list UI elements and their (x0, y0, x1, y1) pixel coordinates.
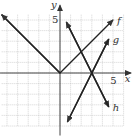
y-axis-label: y (50, 0, 57, 10)
series-g-label: g (113, 34, 119, 45)
y-tick-label-5: 5 (52, 14, 58, 25)
series-f-label: f (116, 15, 123, 26)
graph: x y 5 5 fgh (0, 0, 133, 137)
series-h-label: h (113, 102, 119, 113)
x-tick-label-5: 5 (110, 75, 116, 86)
x-axis-label: x (125, 73, 131, 84)
